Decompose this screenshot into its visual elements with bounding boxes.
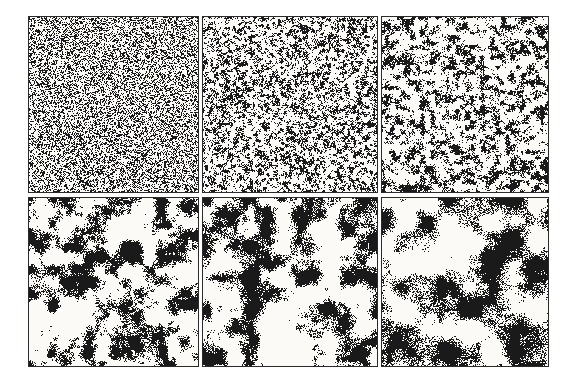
panel-snapshot-6 [381,197,549,367]
speckle-pattern-canvas [29,17,198,192]
speckle-pattern-canvas [382,17,548,192]
domain-pattern-canvas [382,198,548,366]
domain-pattern-canvas [29,198,198,366]
speckle-pattern-canvas [203,17,377,192]
panel-snapshot-2 [202,16,378,193]
panel-snapshot-4 [28,197,199,367]
simulation-figure [28,16,549,367]
domain-pattern-canvas [203,198,377,366]
panel-snapshot-5 [202,197,378,367]
panel-snapshot-1 [28,16,199,193]
panel-snapshot-3 [381,16,549,193]
